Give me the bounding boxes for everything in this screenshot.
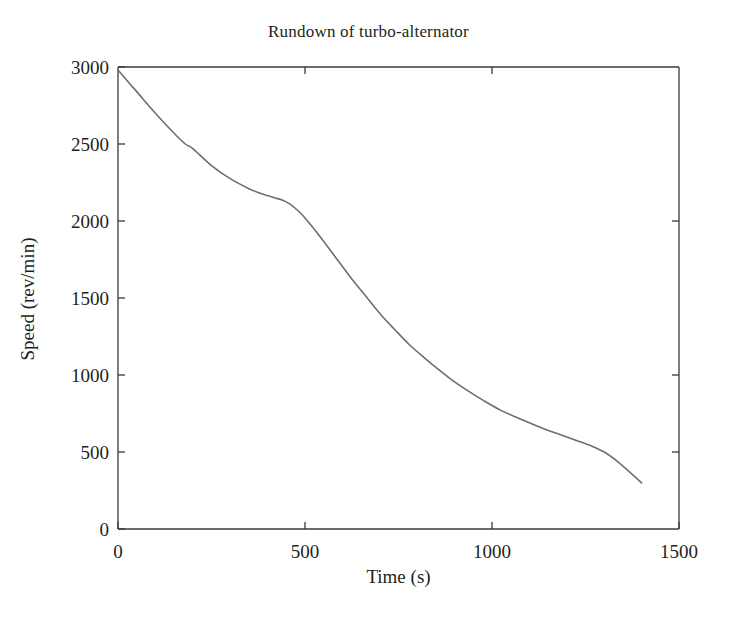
- x-tick-label: 1500: [660, 541, 698, 562]
- y-tick-labels: 3000 2500 2000 1500 1000 500 0: [71, 57, 109, 540]
- y-tick-label: 1500: [71, 288, 109, 309]
- x-tick-label: 0: [113, 541, 123, 562]
- y-tick-label: 2000: [71, 211, 109, 232]
- y-axis-ticks: [118, 67, 125, 529]
- x-axis-ticks: [118, 67, 679, 529]
- x-tick-label: 500: [291, 541, 320, 562]
- axes-spines: [118, 67, 679, 529]
- x-axis-title: Time (s): [118, 566, 679, 588]
- x-tick-label: 1000: [473, 541, 511, 562]
- x-tick-labels: 0 500 1000 1500: [113, 541, 698, 562]
- data-line-speed: [118, 70, 642, 483]
- y-tick-label: 500: [81, 442, 110, 463]
- y-axis-title: Speed (rev/min): [17, 149, 39, 449]
- plot-area: 3000 2500 2000 1500 1000 500 0 0 500 100…: [0, 0, 737, 618]
- y-tick-label: 3000: [71, 57, 109, 78]
- y-tick-label: 2500: [71, 134, 109, 155]
- chart-figure: Rundown of turbo-alternator: [0, 0, 737, 618]
- y-tick-label: 1000: [71, 365, 109, 386]
- y-tick-label: 0: [100, 519, 110, 540]
